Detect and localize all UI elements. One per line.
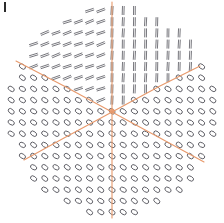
tensor-glyph-figure — [0, 0, 224, 223]
corner-tick-mark — [4, 2, 6, 12]
degenerate-point-marker — [109, 108, 114, 113]
glyph-plot-canvas — [0, 0, 224, 223]
